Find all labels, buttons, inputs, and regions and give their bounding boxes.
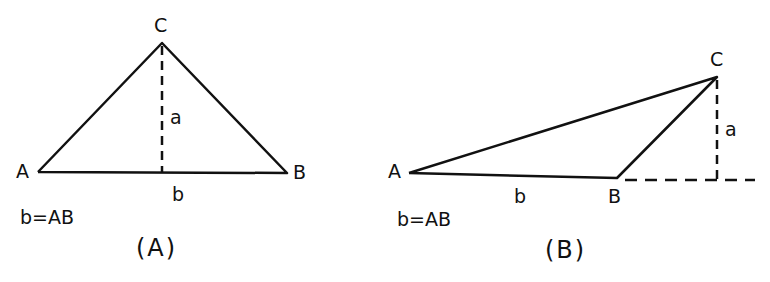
height-label-a: a: [170, 108, 182, 127]
formula-a: b=AB: [20, 208, 74, 227]
vertex-c-label-b: C: [710, 50, 723, 69]
caption-b: (B): [545, 238, 586, 262]
caption-a: (A): [136, 236, 177, 260]
vertex-a-label-a: A: [16, 162, 29, 181]
base-label-a: b: [172, 185, 184, 204]
triangle-a: [38, 43, 287, 173]
vertex-b-label-a: B: [293, 163, 306, 182]
formula-b: b=AB: [397, 210, 451, 229]
vertex-a-label-b: A: [388, 162, 401, 181]
triangle-b: [409, 77, 755, 180]
height-label-b: a: [725, 120, 737, 139]
vertex-b-label-b: B: [608, 187, 621, 206]
base-label-b: b: [514, 187, 526, 206]
vertex-c-label-a: C: [154, 16, 167, 35]
diagram-canvas: [0, 0, 770, 282]
